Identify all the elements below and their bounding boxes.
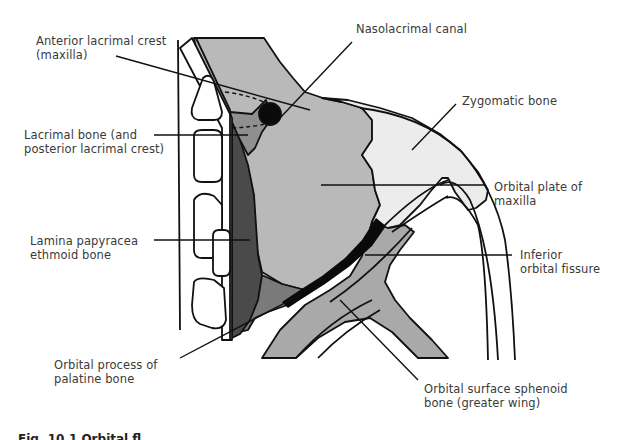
label-orbital-plate-maxilla: Orbital plate of maxilla [494, 180, 582, 208]
nasolacrimal-canal-dot [259, 103, 281, 125]
label-lacrimal-bone: Lacrimal bone (and posterior lacrimal cr… [24, 128, 164, 156]
label-lamina-papyracea: Lamina papyracea ethmoid bone [30, 234, 138, 262]
label-anterior-lacrimal-crest: Anterior lacrimal crest (maxilla) [36, 34, 166, 62]
label-orbital-process-palatine: Orbital process of palatine bone [54, 358, 157, 386]
figure-caption: Fig. 10.1 Orbital fl [18, 431, 141, 440]
label-orbital-surface-sphenoid: Orbital surface sphenoid bone (greater w… [424, 382, 568, 410]
figure: Anterior lacrimal crest (maxilla) Nasola… [0, 0, 620, 440]
label-zygomatic-bone: Zygomatic bone [462, 94, 557, 108]
label-inferior-orbital-fissure: Inferior orbital fissure [520, 248, 600, 276]
label-nasolacrimal-canal: Nasolacrimal canal [356, 22, 467, 36]
